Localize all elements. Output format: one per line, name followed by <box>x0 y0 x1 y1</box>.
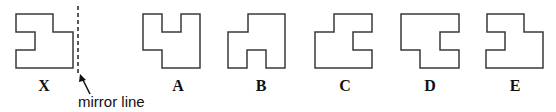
label-a: A <box>172 77 184 95</box>
label-c: C <box>339 77 351 95</box>
shape-x <box>16 14 73 68</box>
label-x: X <box>38 77 50 95</box>
shape-a <box>143 14 200 68</box>
shape-c <box>315 14 372 68</box>
label-e: E <box>510 77 521 95</box>
arrow-icon <box>79 74 90 94</box>
label-b: B <box>256 77 267 95</box>
shape-e <box>486 14 543 68</box>
shape-d <box>401 14 459 68</box>
shape-b <box>228 14 285 68</box>
label-d: D <box>424 77 436 95</box>
mirror-line-caption: mirror line <box>78 93 145 110</box>
